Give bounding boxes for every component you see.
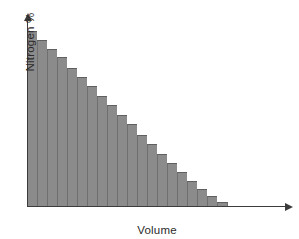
bar bbox=[147, 144, 157, 207]
bar bbox=[127, 124, 137, 207]
bar bbox=[37, 40, 47, 207]
bar-series bbox=[27, 31, 228, 207]
bar bbox=[187, 181, 197, 207]
y-axis-label: Nitrogen % bbox=[24, 0, 36, 97]
plot-area: Volume Nitrogen % bbox=[27, 14, 289, 207]
bar bbox=[197, 189, 207, 207]
x-axis-arrowhead bbox=[285, 203, 293, 211]
bar bbox=[87, 86, 97, 207]
bar bbox=[157, 154, 167, 207]
x-axis-line bbox=[27, 206, 286, 207]
bar bbox=[167, 163, 177, 207]
bar bbox=[107, 105, 117, 207]
bar bbox=[47, 49, 57, 207]
x-axis-label: Volume bbox=[27, 224, 287, 236]
bar bbox=[117, 115, 127, 207]
nitrogen-volume-bar-chart: Volume Nitrogen % bbox=[0, 0, 299, 239]
bar bbox=[177, 172, 187, 207]
bar bbox=[57, 57, 67, 207]
bar bbox=[97, 96, 107, 207]
bar bbox=[67, 68, 77, 207]
bar bbox=[137, 135, 147, 207]
bar bbox=[77, 77, 87, 207]
